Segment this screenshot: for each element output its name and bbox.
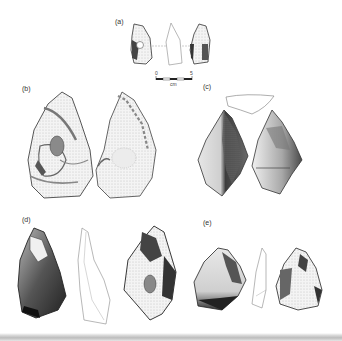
panel-label-c: (c) [203,83,211,90]
panel-label-a: (a) [115,18,124,25]
artifact-e [194,248,322,310]
artifact-c-section [226,95,274,114]
artifact-c [198,95,302,196]
scale-bar [156,76,192,80]
artifact-b-face-2 [96,92,156,198]
artifact-d-profile [78,228,110,324]
bulb-mark [137,42,144,49]
panel-label-b: (b) [22,85,31,92]
artifact-drawings [0,0,342,341]
panel-label-e: (e) [203,219,212,226]
artifact-a [131,23,210,65]
artifact-b [28,92,156,198]
artifact-a-profile [166,23,182,65]
artifact-e-profile [252,248,266,308]
scale-max-label: 5 [190,70,193,76]
figure-plate: 0 5 cm (a) (b) (c) (d) (e) [0,0,342,341]
artifact-c-face-2 [252,110,302,194]
scale-unit-label: cm [170,81,177,87]
artifact-d [18,226,176,324]
scale-min-label: 0 [155,70,158,76]
bottom-divider [0,333,342,341]
panel-label-d: (d) [22,216,31,223]
